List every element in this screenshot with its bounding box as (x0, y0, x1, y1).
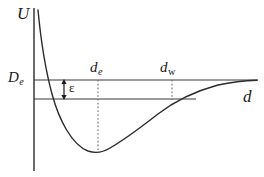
equilibrium-distance-label: de (90, 60, 103, 77)
van-der-waals-distance-label-base: d (160, 59, 168, 75)
van-der-waals-distance-label: dw (160, 60, 175, 77)
diagram-canvas (0, 0, 264, 177)
dissociation-energy-label-subscript: e (19, 76, 24, 87)
x-axis-label: d (243, 88, 252, 105)
van-der-waals-distance-label-subscript: w (168, 66, 176, 77)
dissociation-energy-label-base: D (8, 69, 19, 85)
dissociation-energy-label: De (8, 70, 24, 87)
y-axis-label: U (17, 5, 29, 22)
equilibrium-distance-label-base: d (90, 59, 98, 75)
epsilon-label: ε (69, 81, 74, 94)
equilibrium-distance-label-subscript: e (98, 66, 103, 77)
potential-energy-diagram: U d De de dw ε (0, 0, 264, 177)
epsilon-arrow (61, 79, 66, 100)
